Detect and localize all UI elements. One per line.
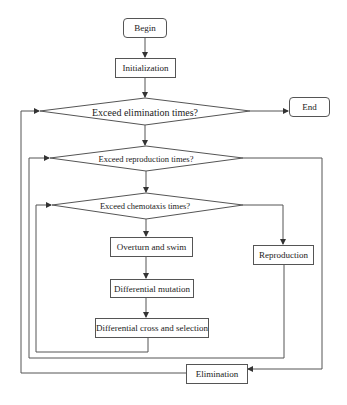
differential-mutation-label: Differential mutation <box>114 284 190 294</box>
reproduction-label: Reproduction <box>259 250 308 260</box>
reproduction-check-label: Exceed reproduction times? <box>99 154 194 164</box>
overturn-swim-label: Overturn and swim <box>117 242 187 252</box>
elimination-label: Elimination <box>196 369 239 379</box>
initialization-node: Initialization <box>115 58 176 78</box>
begin-label: Begin <box>134 23 156 33</box>
reproduction-node: Reproduction <box>253 245 314 265</box>
differential-cross-label: Differential cross and selection <box>96 323 208 333</box>
elimination-node: Elimination <box>186 364 248 384</box>
initialization-label: Initialization <box>123 63 169 73</box>
end-node: End <box>289 97 330 117</box>
overturn-swim-node: Overturn and swim <box>110 237 193 257</box>
begin-node: Begin <box>123 18 167 38</box>
end-label: End <box>302 102 317 112</box>
chemotaxis-check-label: Exceed chemotaxis times? <box>100 201 190 211</box>
elimination-check-label: Exceed elimination times? <box>92 107 198 118</box>
differential-cross-node: Differential cross and selection <box>95 318 209 338</box>
differential-mutation-node: Differential mutation <box>110 279 194 298</box>
